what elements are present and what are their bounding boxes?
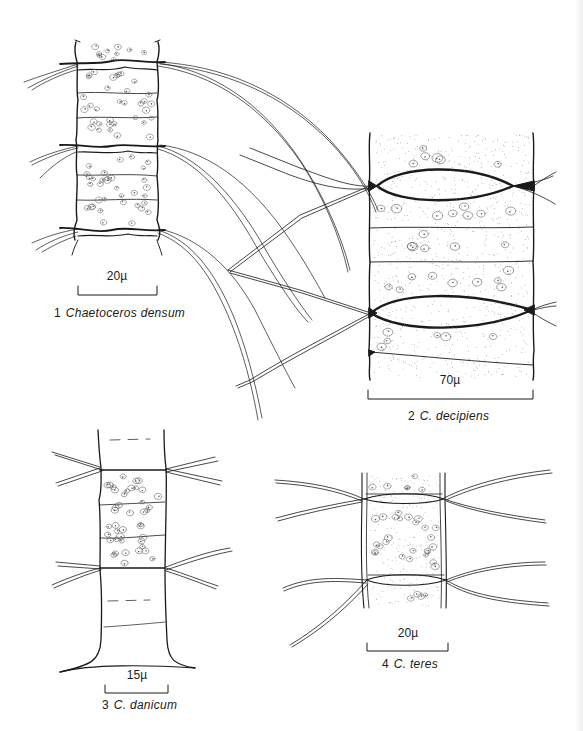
stipple-dot (438, 598, 439, 599)
fig1-seta (160, 62, 378, 210)
stipple-dot (432, 263, 433, 264)
stipple-dot (493, 254, 494, 255)
stipple-dot (515, 346, 516, 347)
stipple-dot (463, 321, 464, 322)
stipple-dot (454, 239, 455, 240)
stipple-dot (470, 316, 471, 317)
chromatophore-core (398, 517, 400, 519)
stipple-dot (478, 194, 479, 195)
stipple-dot (414, 245, 415, 246)
stipple-dot (485, 139, 486, 140)
chromatophore (119, 539, 124, 543)
stipple-dot (384, 286, 385, 287)
stipple-dot (485, 308, 486, 309)
chromatophore-core (122, 476, 124, 478)
stipple-dot (528, 362, 529, 363)
stipple-dot (516, 163, 517, 164)
stipple-dot (498, 322, 499, 323)
stipple-dot (396, 194, 397, 195)
chromatophore-core (117, 530, 119, 532)
stipple-dot (498, 357, 499, 358)
stipple-dot (410, 598, 411, 599)
chromatophore (122, 101, 128, 106)
fig4-seta (275, 480, 364, 499)
stipple-dot (478, 153, 479, 154)
stipple-dot (403, 569, 404, 570)
stipple-dot (458, 141, 459, 142)
fig2-junction-knot (369, 350, 375, 356)
chromatophore (117, 100, 122, 104)
stipple-dot (399, 177, 400, 178)
figure-1-chain (24, 40, 378, 420)
chromatophore-core (375, 519, 377, 521)
chromatophore-core (115, 507, 117, 509)
stipple-dot (494, 213, 495, 214)
stipple-dot (503, 145, 504, 146)
stipple-dot (482, 229, 483, 230)
stipple-dot (484, 226, 485, 227)
stipple-dot (500, 317, 501, 318)
chromatophore (132, 79, 137, 83)
stipple-dot (419, 479, 420, 480)
stipple-dot (445, 178, 446, 179)
stipple-dot (522, 165, 523, 166)
chromatophore-core (386, 340, 388, 342)
stipple-dot (371, 589, 372, 590)
stipple-dot (389, 312, 390, 313)
stipple-dot (396, 548, 397, 549)
chromatophore-core (130, 49, 132, 51)
stipple-dot (414, 355, 415, 356)
stipple-dot (453, 198, 454, 199)
chromatophore-core (467, 215, 469, 217)
stipple-dot (448, 265, 449, 266)
stipple-dot (525, 285, 526, 286)
stipple-dot (388, 602, 389, 603)
stipple-dot (390, 245, 391, 246)
stipple-dot (426, 563, 427, 564)
stipple-dot (418, 516, 419, 517)
stipple-dot (452, 367, 453, 368)
stipple-dot (411, 365, 412, 366)
chromatophore (397, 517, 402, 521)
stipple-dot (389, 315, 390, 316)
stipple-dot (518, 293, 519, 294)
stipple-dot (419, 501, 420, 502)
fig2-seta (240, 155, 372, 189)
stipple-dot (528, 306, 529, 307)
chromatophore (145, 160, 151, 164)
chromatophore-core (381, 208, 383, 210)
chromatophore-core (100, 210, 102, 212)
stipple-dot (388, 243, 389, 244)
fig3-scale-bar (105, 685, 168, 693)
stipple-dot (491, 304, 492, 305)
chromatophore (86, 164, 92, 169)
stipple-dot (399, 359, 400, 360)
stipple-dot (425, 259, 426, 260)
stipple-dot (392, 241, 393, 242)
stipple-dot (392, 560, 393, 561)
stipple-dot (436, 372, 437, 373)
stipple-dot (419, 342, 420, 343)
chromatophore-core (492, 335, 494, 337)
stipple-dot (394, 206, 395, 207)
stipple-dot (397, 297, 398, 298)
fig1-seta (32, 148, 78, 165)
stipple-dot (528, 172, 529, 173)
stipple-dot (401, 135, 402, 136)
stipple-dot (390, 358, 391, 359)
stipple-dot (463, 272, 464, 273)
stipple-dot (388, 586, 389, 587)
stipple-dot (404, 326, 405, 327)
stipple-dot (450, 170, 451, 171)
chromatophore (143, 185, 150, 191)
stipple-dot (391, 544, 392, 545)
stipple-dot (384, 297, 385, 298)
stipple-dot (405, 481, 406, 482)
stipple-dot (468, 295, 469, 296)
stipple-dot (395, 218, 396, 219)
stipple-dot (408, 220, 409, 221)
stipple-dot (501, 231, 502, 232)
stipple-dot (472, 170, 473, 171)
chromatophore (105, 532, 111, 537)
stipple-dot (392, 569, 393, 570)
